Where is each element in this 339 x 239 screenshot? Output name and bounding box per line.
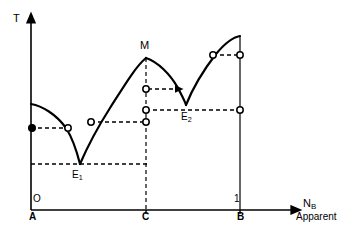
x-axis-label-main: N xyxy=(303,197,311,209)
eutectic-1-label-main: E xyxy=(72,169,79,180)
liquidus-a-to-e1 xyxy=(31,104,80,164)
x-tick-label-c: C xyxy=(142,212,149,222)
x-axis-label-second-line: Apparent xyxy=(296,212,337,222)
liquidus-e1-to-m xyxy=(80,58,146,164)
x-tick-label-b: B xyxy=(237,212,244,222)
eutectic-2-label: E2 xyxy=(181,112,192,123)
eutectic-1-label-subscript: 1 xyxy=(79,173,83,182)
tie-line-b-high-open-point xyxy=(237,52,243,58)
initial-composition-filled-point xyxy=(29,125,36,132)
x-axis-label-subscript: B xyxy=(311,202,316,211)
phase-diagram-canvas xyxy=(0,0,339,239)
eutectic-2-label-subscript: 2 xyxy=(188,115,192,124)
liquidus-right-of-e1-open-point xyxy=(88,119,94,125)
x-value-label-one: 1 xyxy=(234,194,240,204)
liquidus-m-to-e2 xyxy=(146,58,186,105)
maximum-point-label: M xyxy=(140,40,149,51)
eutectic-2-label-main: E xyxy=(181,111,188,122)
liquidus-right-branch-open-point xyxy=(210,52,216,58)
liquidus-left-open-point xyxy=(65,125,71,131)
eutectic-1-label: E1 xyxy=(72,170,83,181)
x-tick-label-a: A xyxy=(29,212,36,222)
origin-label: O xyxy=(33,194,41,204)
tie-line-c-high-open-point xyxy=(143,86,149,92)
tie-line-c-low-open-point xyxy=(143,119,149,125)
liquidus-e2-to-b xyxy=(186,36,240,105)
phase-diagram-figure: T O A C B 1 M E1 E2 NB Apparent xyxy=(0,0,339,239)
x-axis-label: NB xyxy=(303,198,316,211)
tie-line-c-mid-open-point xyxy=(143,107,149,113)
tie-line-b-mid-open-point xyxy=(237,107,243,113)
y-axis-label: T xyxy=(13,13,20,24)
